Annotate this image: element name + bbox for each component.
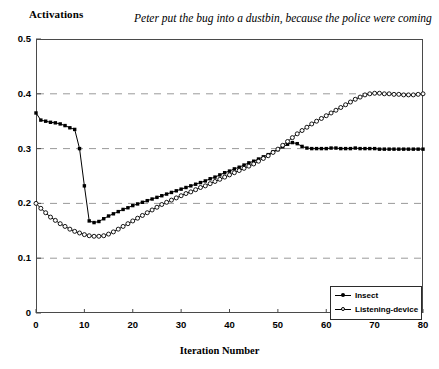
y-tick-label: 0 [3,307,31,318]
x-tick-label: 80 [408,319,438,330]
x-tick-label: 70 [360,319,390,330]
y-tick-label: 0.5 [3,33,31,44]
legend-item-insect: Insect [335,291,378,300]
x-tick-label: 0 [21,319,51,330]
legend-label: Insect [355,291,378,300]
x-axis-label: Iteration Number [0,345,439,356]
x-tick-label: 20 [118,319,148,330]
x-tick-label: 60 [311,319,341,330]
chart-legend: Insect Listening-device [330,286,422,320]
chart-root: Activations Peter put the bug into a dus… [0,0,439,369]
filled-square-marker-icon [335,291,351,300]
plot-area [36,39,423,313]
x-tick-label: 40 [215,319,245,330]
legend-item-listening-device: Listening-device [335,305,418,314]
legend-label: Listening-device [355,305,418,314]
chart-title: Peter put the bug into a dustbin, becaus… [134,12,434,24]
x-tick-label: 50 [263,319,293,330]
x-tick-label: 30 [166,319,196,330]
y-tick-label: 0.4 [3,88,31,99]
open-circle-marker-icon [335,305,351,314]
y-tick-label: 0.1 [3,252,31,263]
y-tick-label: 0.2 [3,197,31,208]
y-tick-label: 0.3 [3,143,31,154]
y-axis-label: Activations [29,8,83,20]
x-tick-label: 10 [69,319,99,330]
